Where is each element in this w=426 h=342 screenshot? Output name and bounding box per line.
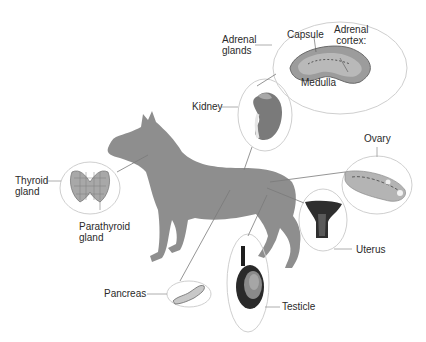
label-ovary: Ovary <box>364 133 391 144</box>
diagram-canvas <box>0 0 426 342</box>
ovary-illustration <box>345 171 406 201</box>
uterus-illustration <box>305 201 342 238</box>
label-parathyroid-gland: Parathyroid gland <box>79 221 130 243</box>
pancreas-illustration <box>173 285 204 304</box>
label-medulla: Medulla <box>301 77 336 88</box>
kidney-illustration <box>253 93 282 140</box>
label-testicle: Testicle <box>282 301 315 312</box>
thyroid-illustration <box>70 171 109 202</box>
label-pancreas: Pancreas <box>104 288 146 299</box>
label-adrenal-cortex: Adrenal cortex: <box>334 24 368 46</box>
label-capsule: Capsule <box>287 29 324 40</box>
label-kidney: Kidney <box>192 101 223 112</box>
label-adrenal-glands: Adrenal glands <box>222 34 256 56</box>
label-uterus: Uterus <box>356 244 385 255</box>
label-thyroid-gland: Thyroid gland <box>15 175 48 197</box>
